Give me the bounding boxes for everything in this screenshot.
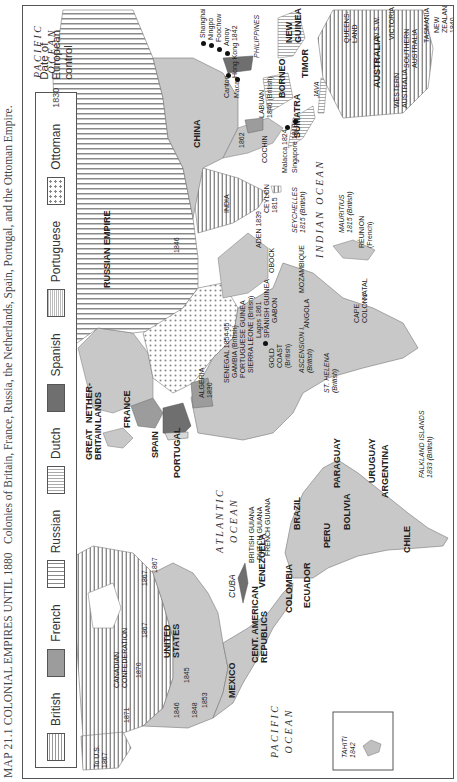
great-britain-island <box>103 428 133 448</box>
ascension-label: ASCENSION I.(British) <box>298 326 314 373</box>
dutch-swatch-icon <box>47 466 65 494</box>
label-line: 1846 (British) <box>266 76 273 118</box>
date-1870: 1870 <box>135 662 143 678</box>
victoria-label: VICTORIA <box>388 7 396 40</box>
western-australia-label: WESTERNAUSTRALIA <box>393 69 409 108</box>
settlement-dot <box>293 119 298 124</box>
cent-american-label: CENT. AMERICANREPUBLICS <box>251 586 269 663</box>
peru-label: PERU <box>323 523 332 548</box>
ocean-line: ATLANTIC <box>214 488 225 553</box>
french-swatch-icon <box>47 649 65 677</box>
falkland-islands-label: FALKLAND ISLANDS1833 (British) <box>418 410 434 478</box>
settlement-dot <box>285 125 290 130</box>
label-line: 1815 (British) <box>346 191 353 233</box>
label-line: ASCENSION I. <box>298 326 305 373</box>
british-swatch-icon <box>47 733 65 761</box>
label-line: MAURITIUS <box>338 195 345 234</box>
label-line: ZEALAND <box>441 5 448 33</box>
label-line: LANDS <box>93 392 103 423</box>
java-label: JAVA <box>313 81 321 98</box>
label-line: CEYLON <box>263 184 270 213</box>
map-description: Colonies of Britain, France, Russia, the… <box>2 105 14 544</box>
gabon-label: GABON <box>271 298 279 323</box>
port-dot <box>217 47 222 52</box>
date-1846: 1846 <box>173 702 181 718</box>
india-label: INDIA <box>223 194 231 213</box>
label-line: BRITAIN <box>93 424 103 460</box>
date-1848: 1848 <box>191 702 199 718</box>
label-line: STATES <box>171 624 181 658</box>
label-line: REPUBLICS <box>259 611 269 663</box>
reunion-label: RÉUNION(French) <box>358 216 374 248</box>
label-line: GOLD <box>268 348 275 368</box>
legend-item-dutch: Dutch <box>47 428 65 494</box>
settlement-dot <box>263 341 268 346</box>
canadian-confederation-label: CANADIANCONFEDERATION <box>113 628 129 688</box>
label-line: (British) <box>306 349 313 373</box>
label-line: 1815 (British) <box>299 191 306 233</box>
dutch-guiana-label: DUTCH GUIANA <box>256 507 264 560</box>
label-line: (French) <box>366 222 373 248</box>
netherlands-label: NETHER-LANDS <box>85 383 103 423</box>
indian-ocean-label: INDIAN OCEAN <box>313 159 327 258</box>
pacific-ocean-west-label: PACIFIC OCEAN <box>268 703 296 758</box>
date-label-line1: Date of European <box>38 30 62 80</box>
portuguese-guinea-label: PORTUGUESE GUINEA <box>239 300 247 378</box>
cuba-label: CUBA <box>228 574 237 598</box>
seychelles-label: SEYCHELLES1815 (British) <box>291 187 307 233</box>
tahiti-label: TAHITI1842 <box>341 736 357 758</box>
label-line: AUSTRALIA <box>411 29 418 68</box>
legend-item-french: French <box>47 604 65 676</box>
date-label: Date of European control <box>38 30 74 80</box>
paraguay-label: PARAGUAY <box>333 438 342 488</box>
port-shanghai: Shanghai <box>199 8 207 38</box>
rotated-page: MAP 21.1 COLONIAL EMPIRES UNTIL 1880 Col… <box>0 0 457 782</box>
angola-label: ANGOLA <box>303 299 311 328</box>
label-line: 1815 <box>271 197 278 213</box>
port-dot <box>235 77 240 82</box>
port-ningpo: Ningpo <box>207 18 215 40</box>
map-title: COLONIAL EMPIRES UNTIL 1880 <box>2 553 14 726</box>
uruguay-label: URUGUAY <box>368 438 377 483</box>
label-line: TAHITI <box>341 736 348 758</box>
label-line: LAND <box>351 24 358 43</box>
label-line: WESTERN <box>393 73 400 108</box>
label-line: CANADIAN <box>113 652 120 688</box>
argentina-label: ARGENTINA <box>381 445 390 499</box>
label-line: CONFEDERATION <box>121 628 128 688</box>
cuba-island <box>238 563 248 603</box>
legend-item-ottoman: Ottoman <box>47 124 65 205</box>
ocean-line: PACIFIC <box>269 703 280 758</box>
french-guiana-label: FRENCH GUIANA <box>264 498 272 556</box>
port-dot <box>225 51 230 56</box>
great-britain-label: GREATBRITAIN <box>85 424 103 460</box>
label-line: SOUTHERN <box>403 29 410 68</box>
port-foochow: Foochow <box>215 14 223 42</box>
date-sample: 1830 <box>51 88 61 108</box>
sierra-leone-label: SIERRA LEONE (British) <box>247 296 255 373</box>
port-dot <box>201 41 206 46</box>
china-label: CHINA <box>193 120 202 149</box>
legend-label: French <box>49 604 63 641</box>
legend-label: Portuguese <box>49 221 63 282</box>
to-us-text: To U.S. <box>93 745 100 768</box>
russian-swatch-icon <box>47 560 65 588</box>
algeria-label: ALGERIA1830 <box>198 368 214 398</box>
legend-label: British <box>49 693 63 726</box>
label-line: GUINEA <box>293 8 303 43</box>
lagos-label: Lagos 1861 <box>255 301 263 338</box>
date-1853: 1853 <box>201 692 209 708</box>
label-line: AUSTRALIA <box>401 69 408 108</box>
date-1867-b: 1867 <box>141 570 149 586</box>
chile-label: CHILE <box>403 526 412 553</box>
legend-item-russian: Russian <box>47 510 65 588</box>
label-line: 1842 <box>349 742 356 758</box>
label-line: 1833 (British) <box>426 436 433 478</box>
brazil-label: BRAZIL <box>293 497 302 530</box>
legend-label: Ottoman <box>49 124 63 170</box>
labuan-label: LABUAN1846 (British) <box>258 76 274 118</box>
label-line: SEYCHELLES <box>291 187 298 233</box>
russian-empire-label: RUSSIAN EMPIRE <box>103 210 112 288</box>
gambia-label: GAMBIA (British) <box>231 325 239 378</box>
to-us-label: To U.S.1867 <box>93 745 109 768</box>
